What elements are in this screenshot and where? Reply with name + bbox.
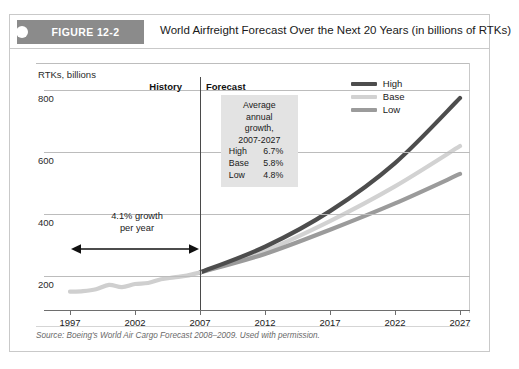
x-axis-line [44,310,470,311]
annotation-line-2: growth, [229,123,290,135]
forecast-label: Forecast [206,81,246,92]
y-tick-label-800: 800 [38,93,54,104]
legend-label-high: High [383,78,403,89]
gridline-200 [44,276,470,277]
x-tick-mark-2002 [135,311,136,315]
figure-screenshot: FIGURE 12-2 World Airfreight Forecast Ov… [0,0,519,369]
annotation-line-1: Average annual [229,100,290,123]
x-tick-mark-2027 [460,311,461,315]
legend-swatch-low [351,108,377,112]
annotation-base-value: 5.8% [263,158,290,170]
legend-item-high: High [351,77,405,90]
x-tick-mark-1997 [70,311,71,315]
x-tick-mark-2017 [330,311,331,315]
annotation-base-name: Base [229,158,257,170]
annotation-high-name: High [229,146,257,158]
legend-label-base: Base [383,91,405,102]
history-forecast-divider [200,77,201,310]
y-tick-label-200: 200 [38,279,54,290]
y-tick-label-400: 400 [38,217,54,228]
chart-legend: HighBaseLow [351,77,405,116]
legend-label-low: Low [383,104,400,115]
chart-panel: RTKs, billions 200400600800 199720022007… [36,63,470,313]
figure-number-label: FIGURE 12-2 [42,26,120,38]
figure-header: FIGURE 12-2 World Airfreight Forecast Ov… [10,15,489,49]
gridline-800 [44,90,470,91]
x-tick-mark-2007 [200,311,201,315]
figure-number-tag: FIGURE 12-2 [17,20,144,44]
figure-title: World Airfreight Forecast Over the Next … [160,24,511,36]
x-tick-mark-2012 [265,311,266,315]
annotation-row-base: Base 5.8% [229,158,290,170]
tag-notch-decoration [16,26,28,38]
figure-frame: FIGURE 12-2 World Airfreight Forecast Ov… [9,14,490,352]
annotation-row-high: High 6.7% [229,146,290,158]
annotation-row-low: Low 4.8% [229,170,290,182]
growth-annotation-box: Average annual growth, 2007-2027 High 6.… [221,95,298,187]
annotation-line-3: 2007-2027 [229,135,290,147]
x-tick-mark-2022 [395,311,396,315]
source-rule [36,326,470,327]
history-label: History [149,81,182,92]
legend-item-base: Base [351,90,405,103]
y-tick-label-600: 600 [38,155,54,166]
annotation-low-value: 4.8% [263,170,290,182]
double-headed-arrow-icon [71,241,199,257]
legend-swatch-high [351,82,377,86]
legend-swatch-base [351,95,377,99]
source-note: Source: Boeing's World Air Cargo Forecas… [36,331,320,340]
legend-item-low: Low [351,103,405,116]
annotation-high-value: 6.7% [263,146,290,158]
growth-note-line-2: per year [78,223,196,235]
historical-growth-note: 4.1% growth per year [78,211,196,234]
plot-area: 200400600800 199720022007201220172022202… [36,63,470,313]
growth-note-line-1: 4.1% growth [78,211,196,223]
annotation-low-name: Low [229,170,257,182]
